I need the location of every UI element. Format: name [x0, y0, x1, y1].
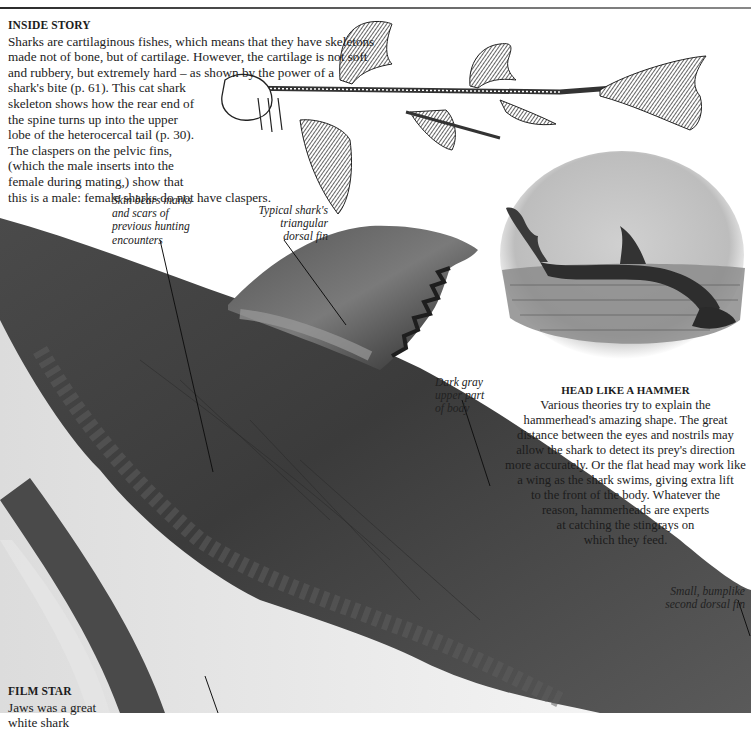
inside-story-caption: INSIDE STORY Sharks are cartilaginous fi…: [8, 18, 378, 205]
inside-story-line: made not of bone, but of cartilage. Howe…: [8, 49, 367, 64]
inside-story-line: female during mating,) show that: [8, 174, 183, 189]
hammer-line: a wing as the shark swims, giving extra …: [517, 473, 734, 487]
label-line: encounters: [112, 234, 163, 247]
label-line: upper part: [435, 389, 484, 402]
label-line: and scars of: [112, 207, 169, 220]
label-line: of body: [435, 402, 469, 415]
label-skin-scars: Skin bears marks and scars of previous h…: [112, 194, 222, 247]
hammer-line: at catching the stingrays on: [557, 518, 695, 532]
label-second-dorsal-fin: Small, bumplike second dorsal fin: [630, 585, 745, 611]
label-line: dorsal fin: [283, 230, 328, 243]
label-line: Dark gray: [435, 376, 483, 389]
hammer-line: Various theories try to explain the: [540, 398, 710, 412]
inside-story-line: Sharks are cartilaginous fishes, which m…: [8, 34, 374, 49]
hammer-line: which they feed.: [584, 533, 668, 547]
film-star-caption: FILM STAR Jaws was a great white shark: [8, 684, 128, 731]
label-line: Small, bumplike: [670, 585, 745, 598]
film-star-heading: FILM STAR: [8, 684, 128, 700]
inside-story-line: shark's bite (p. 61). This cat shark: [8, 80, 186, 95]
inside-story-line: skeleton shows how the rear end of: [8, 96, 194, 111]
inside-story-line: lobe of the heterocercal tail (p. 30).: [8, 127, 194, 142]
label-line: Typical shark's: [258, 204, 328, 217]
hammer-heading: HEAD LIKE A HAMMER: [500, 383, 751, 398]
inside-story-line: the spine turns up into the upper: [8, 112, 178, 127]
hammer-line: to the front of the body. Whatever the: [531, 488, 720, 502]
label-line: previous hunting: [112, 220, 190, 233]
inside-story-heading: INSIDE STORY: [8, 18, 378, 34]
hammer-line: more accurately. Or the flat head may wo…: [505, 458, 746, 472]
inside-story-line: The claspers on the pelvic fins,: [8, 143, 172, 158]
hammer-line: distance between the eyes and nostrils m…: [517, 428, 734, 442]
inside-story-line: (which the male inserts into the: [8, 158, 174, 173]
hammer-line: reason, hammerheads are experts: [542, 503, 709, 517]
hammerhead-engraving: [500, 151, 745, 359]
head-like-a-hammer-caption: HEAD LIKE A HAMMER Various theories try …: [500, 383, 751, 548]
hammer-line: hammerhead's amazing shape. The great: [524, 413, 728, 427]
label-line: Skin bears marks: [112, 194, 192, 207]
hammer-line: allow the shark to detect its prey's dir…: [516, 443, 735, 457]
film-star-line: white shark: [8, 715, 69, 730]
film-star-line: Jaws was a great: [8, 700, 96, 715]
label-dorsal-fin: Typical shark's triangular dorsal fin: [218, 204, 328, 244]
label-line: second dorsal fin: [665, 598, 745, 611]
label-line: triangular: [280, 217, 328, 230]
inside-story-line: and rubbery, but extremely hard – as sho…: [8, 65, 334, 80]
